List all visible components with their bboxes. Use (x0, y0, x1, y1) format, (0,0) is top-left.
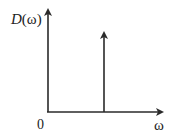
x-axis-label: ω (154, 117, 164, 134)
y-axis-var: ω (27, 11, 37, 27)
y-axis-func: D (11, 11, 22, 27)
y-axis-close-paren: ) (37, 11, 42, 27)
origin-label: 0 (37, 117, 44, 133)
diagram-canvas: D(ω) 0 ω (0, 0, 178, 138)
y-axis-label: D(ω) (11, 11, 42, 28)
